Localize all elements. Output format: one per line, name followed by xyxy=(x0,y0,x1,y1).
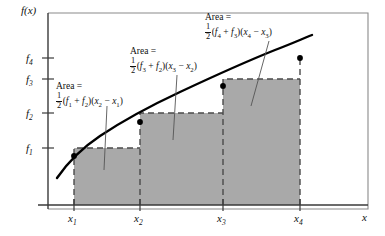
y-tick-label-f4: f4 xyxy=(26,53,33,67)
area-annotation-1-formula: 12(f1 + f2)(x2 − x1) xyxy=(56,92,123,110)
y-tick-label-f2: f2 xyxy=(26,108,33,122)
one-half-fraction: 12 xyxy=(205,23,211,41)
x-tick-label-x2: x2 xyxy=(134,213,143,227)
y-axis-label: f(x) xyxy=(21,5,36,16)
y-tick-label-f1: f1 xyxy=(26,143,33,157)
one-half-fraction: 12 xyxy=(56,92,62,110)
x-tick-label-x3: x3 xyxy=(217,213,226,227)
x-tick-label-x1: x1 xyxy=(68,213,77,227)
x-tick-label-x4: x4 xyxy=(294,213,303,227)
area-annotation-1-title: Area = xyxy=(56,81,123,92)
x-axis-label: x xyxy=(362,212,367,223)
y-tick-label-f3: f3 xyxy=(26,74,33,88)
area-annotation-3: Area = 12(f4 + f3)(x4 − x3) xyxy=(205,12,272,41)
area-annotation-3-formula: 12(f4 + f3)(x4 − x3) xyxy=(205,23,272,41)
shaded-area-1 xyxy=(74,148,140,205)
shaded-area-3 xyxy=(223,79,300,205)
data-point-4 xyxy=(297,55,303,61)
shaded-area-2 xyxy=(140,113,223,205)
data-point-3 xyxy=(220,83,226,89)
data-point-1 xyxy=(71,153,77,159)
area-annotation-3-title: Area = xyxy=(205,12,272,23)
area-annotation-1: Area = 12(f1 + f2)(x2 − x1) xyxy=(56,81,123,110)
area-annotation-2-title: Area = xyxy=(130,46,197,57)
area-annotation-2-formula: 12(f3 + f2)(x3 − x2) xyxy=(130,57,197,75)
area-annotation-2: Area = 12(f3 + f2)(x3 − x2) xyxy=(130,46,197,75)
trapezoidal-rule-figure: f(x) x f1 f2 f3 f4 x1 x2 x3 x4 Area = 12… xyxy=(0,0,385,236)
one-half-fraction: 12 xyxy=(130,57,136,75)
data-point-2 xyxy=(137,119,143,125)
figure-canvas xyxy=(0,0,385,236)
